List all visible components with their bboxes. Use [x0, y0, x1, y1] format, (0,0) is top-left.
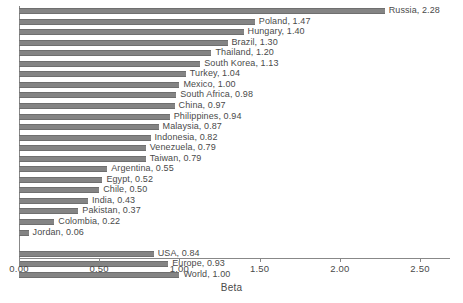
bar-value-label: Colombia, 0.22 — [58, 216, 120, 227]
bar-row: Europe, 0.93 — [19, 259, 450, 270]
bar — [19, 166, 107, 172]
bar — [19, 71, 186, 77]
bar-value-label: Pakistan, 0.37 — [82, 205, 140, 216]
bar-value-label: Brazil, 1.30 — [232, 37, 278, 48]
bar — [19, 198, 88, 204]
bar-value-label: Egypt, 0.52 — [106, 174, 153, 185]
bar-row: Philippines, 0.94 — [19, 112, 450, 123]
x-axis-tick-label: 0.00 — [9, 263, 28, 274]
x-axis-title: Beta — [0, 282, 463, 293]
bar-row: Jordan, 0.06 — [19, 228, 450, 239]
bar — [19, 61, 200, 67]
bar — [19, 230, 29, 236]
x-axis-tick — [19, 258, 20, 262]
x-axis-tick — [340, 258, 341, 262]
bar-value-label: USA, 0.84 — [158, 248, 200, 259]
bar-value-label: China, 0.97 — [179, 100, 226, 111]
bar-value-label: Russia, 2.28 — [389, 5, 440, 16]
bar — [19, 40, 228, 46]
bar-row: South Africa, 0.98 — [19, 90, 450, 101]
bar — [19, 187, 99, 193]
bar-value-label: India, 0.43 — [92, 195, 135, 206]
bar — [19, 145, 146, 151]
bar — [19, 251, 154, 257]
x-axis-tick — [179, 258, 180, 262]
bar-row: World, 1.00 — [19, 270, 450, 281]
bar — [19, 103, 175, 109]
x-axis-tick-label: 1.00 — [170, 263, 189, 274]
bar-value-label: Malaysia, 0.87 — [163, 121, 222, 132]
bar-row: Indonesia, 0.82 — [19, 133, 450, 144]
bar-row: Argentina, 0.55 — [19, 164, 450, 175]
bar-value-label: Jordan, 0.06 — [33, 227, 84, 238]
bar-value-label: Taiwan, 0.79 — [150, 153, 202, 164]
bar-row: Taiwan, 0.79 — [19, 154, 450, 165]
x-axis-tick-label: 2.00 — [330, 263, 349, 274]
bar-value-label: Chile, 0.50 — [103, 184, 147, 195]
bar — [19, 177, 102, 183]
bar — [19, 8, 385, 14]
bar-row: Egypt, 0.52 — [19, 175, 450, 186]
x-axis-tick-label: 2.50 — [410, 263, 429, 274]
beta-bar-chart: Russia, 2.28Poland, 1.47Hungary, 1.40Bra… — [0, 0, 463, 303]
bar — [19, 208, 78, 214]
bar-value-label: Turkey, 1.04 — [190, 68, 240, 79]
bar — [19, 124, 159, 130]
x-axis-tick — [260, 258, 261, 262]
bar-row: Chile, 0.50 — [19, 185, 450, 196]
bar — [19, 50, 211, 56]
bar-value-label: Thailand, 1.20 — [215, 47, 273, 58]
bar-value-label: Hungary, 1.40 — [248, 26, 305, 37]
bar-value-label: South Africa, 0.98 — [180, 89, 253, 100]
bar — [19, 82, 179, 88]
bar — [19, 29, 244, 35]
bar-row: Malaysia, 0.87 — [19, 122, 450, 133]
bar-value-label: South Korea, 1.13 — [204, 58, 278, 69]
bar-value-label: Poland, 1.47 — [259, 16, 311, 27]
bar — [19, 92, 176, 98]
bar-value-label: World, 1.00 — [183, 269, 230, 280]
x-axis-tick — [99, 258, 100, 262]
bar — [19, 114, 170, 120]
bar — [19, 156, 146, 162]
bar-row: Venezuela, 0.79 — [19, 143, 450, 154]
bar-row: Poland, 1.47 — [19, 17, 450, 28]
bar-value-label: Philippines, 0.94 — [174, 111, 242, 122]
bar-row: USA, 0.84 — [19, 249, 450, 260]
bar-value-label: Indonesia, 0.82 — [155, 132, 218, 143]
bar — [19, 219, 54, 225]
bar — [19, 19, 255, 25]
bar-value-label: Venezuela, 0.79 — [150, 142, 216, 153]
bar-value-label: Argentina, 0.55 — [111, 163, 174, 174]
x-axis-tick-label: 0.50 — [90, 263, 109, 274]
bar-row: Russia, 2.28 — [19, 6, 450, 17]
x-axis-tick — [420, 258, 421, 262]
bar — [19, 135, 151, 141]
bar-value-label: Mexico, 1.00 — [183, 79, 235, 90]
x-axis-tick-label: 1.50 — [250, 263, 269, 274]
plot-area: Russia, 2.28Poland, 1.47Hungary, 1.40Bra… — [19, 6, 450, 256]
